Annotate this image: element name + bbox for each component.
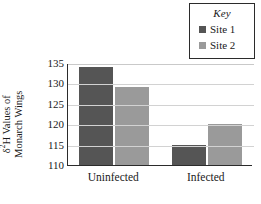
legend-title: Key <box>190 7 254 20</box>
legend-swatch-site-1 <box>199 26 206 33</box>
bar-infected-site-1 <box>172 145 206 165</box>
bar-group-container <box>68 64 252 165</box>
y-tick-label: 130 <box>38 78 64 89</box>
y-axis-title-line-2: Monarch Wings <box>13 72 26 176</box>
y-axis-title: δ2H Values of Monarch Wings <box>0 72 25 176</box>
x-label-uninfected: Uninfected <box>67 170 160 184</box>
chart-root: Key Site 1 Site 2 δ2H Values of Monarch … <box>0 0 261 204</box>
y-tick-label: 115 <box>38 140 64 151</box>
bar-chart: δ2H Values of Monarch Wings 110115120125… <box>0 60 261 204</box>
bar-uninfected-site-2 <box>115 87 149 165</box>
legend-label-site-1: Site 1 <box>210 22 235 36</box>
bar-infected-site-2 <box>208 124 242 165</box>
legend-item-site-1: Site 1 <box>190 22 254 36</box>
y-axis-tick-labels: 110115120125130135 <box>38 60 64 166</box>
legend-item-site-2: Site 2 <box>190 38 254 52</box>
bar-uninfected-site-1 <box>79 67 113 165</box>
gridline <box>68 146 254 147</box>
y-tick-label: 110 <box>38 160 64 171</box>
gridline <box>68 125 254 126</box>
gridline <box>68 84 254 85</box>
legend-box: Key Site 1 Site 2 <box>189 3 255 59</box>
plot-area <box>67 64 252 166</box>
y-tick-label: 125 <box>38 99 64 110</box>
y-axis-title-line-1: δ2H Values of <box>0 72 13 176</box>
gridline <box>68 105 254 106</box>
legend-label-site-2: Site 2 <box>210 38 235 52</box>
x-axis-category-labels: UninfectedInfected <box>67 170 252 190</box>
y-tick-label: 135 <box>38 58 64 69</box>
legend-swatch-site-2 <box>199 42 206 49</box>
y-tick-label: 120 <box>38 119 64 130</box>
x-label-infected: Infected <box>160 170 253 184</box>
gridline <box>68 64 254 65</box>
